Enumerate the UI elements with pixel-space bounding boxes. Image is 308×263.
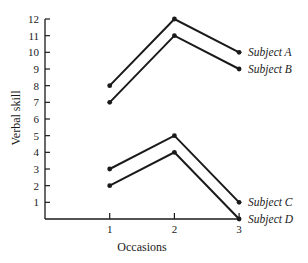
series-label-subject-c: Subject C [248, 196, 293, 209]
x-tick-label: 3 [236, 223, 242, 235]
data-point [237, 217, 242, 222]
y-tick-label: 3 [34, 163, 40, 175]
series-label-subject-b: Subject B [248, 63, 292, 76]
y-tick-label: 5 [34, 130, 40, 142]
data-point [107, 83, 112, 88]
y-tick-label: 6 [34, 113, 40, 125]
data-point [237, 67, 242, 72]
x-axis: 123 [45, 213, 242, 235]
x-axis-title: Occasions [117, 240, 167, 254]
y-axis: 123456789101112 [28, 13, 50, 219]
data-point [172, 150, 177, 155]
y-tick-label: 7 [34, 96, 40, 108]
series-subject-c [107, 133, 241, 204]
series-line [110, 136, 239, 203]
line-chart: 123456789101112 123 Subject ASubject BSu… [0, 0, 308, 263]
data-point [172, 17, 177, 22]
data-point [237, 200, 242, 205]
y-tick-label: 12 [28, 13, 39, 25]
series-lines [107, 17, 241, 222]
y-axis-title: Verbal skill [9, 90, 23, 146]
x-tick-label: 2 [172, 223, 178, 235]
series-line [110, 36, 239, 103]
data-point [107, 100, 112, 105]
x-tick-label: 1 [107, 223, 113, 235]
y-tick-label: 10 [28, 46, 40, 58]
data-point [107, 167, 112, 172]
series-line [110, 152, 239, 219]
data-point [107, 183, 112, 188]
series-line [110, 19, 239, 86]
y-tick-label: 2 [34, 180, 40, 192]
data-point [172, 133, 177, 138]
series-subject-a [107, 17, 241, 88]
data-point [237, 50, 242, 55]
series-label-subject-a: Subject A [248, 46, 293, 59]
y-tick-label: 1 [34, 196, 40, 208]
y-tick-label: 4 [34, 146, 40, 158]
y-tick-label: 9 [34, 63, 40, 75]
y-tick-label: 11 [28, 30, 39, 42]
data-point [172, 33, 177, 38]
y-tick-label: 8 [34, 80, 40, 92]
series-labels: Subject ASubject BSubject CSubject D [248, 46, 294, 226]
series-label-subject-d: Subject D [248, 213, 294, 226]
